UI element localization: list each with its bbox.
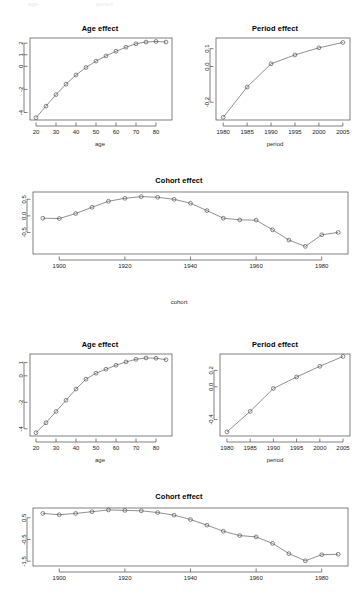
svg-text:1900: 1900	[53, 263, 67, 269]
svg-text:50: 50	[93, 129, 100, 135]
svg-text:-2: -2	[18, 86, 24, 92]
svg-text:20: 20	[33, 129, 40, 135]
age1-xlabel: age	[40, 141, 160, 147]
ghost-label-period: period	[96, 1, 113, 7]
svg-text:1995: 1995	[288, 129, 302, 135]
age2-canvas: 2030405060708010-2-4	[0, 348, 180, 460]
cohort1-title: Cohort effect	[119, 176, 239, 185]
period1-canvas: 1980198519901995200020050.10.0-0.2	[180, 32, 358, 144]
svg-text:1960: 1960	[249, 263, 263, 269]
svg-text:1920: 1920	[118, 263, 132, 269]
svg-text:1980: 1980	[220, 445, 234, 451]
svg-text:0.1: 0.1	[204, 44, 210, 53]
svg-text:0.2: 0.2	[208, 366, 214, 375]
period2-xlabel: period	[215, 457, 335, 463]
age2-xlabel: age	[40, 457, 160, 463]
cohort2-title: Cohort effect	[119, 492, 239, 501]
svg-text:50: 50	[93, 445, 100, 451]
age1-plot: 20304050607080210-2-4	[0, 32, 180, 144]
svg-text:-2: -2	[18, 399, 24, 405]
svg-text:0.0: 0.0	[21, 211, 27, 220]
svg-text:1: 1	[18, 52, 24, 56]
svg-text:2: 2	[18, 41, 24, 45]
svg-text:-4: -4	[18, 109, 24, 115]
svg-text:1990: 1990	[267, 445, 281, 451]
svg-text:1900: 1900	[53, 575, 67, 581]
period1-plot: 1980198519901995200020050.10.0-0.2	[180, 32, 358, 144]
svg-text:1960: 1960	[249, 575, 263, 581]
cohort2-plot: 190019201940196019800.5-0.5-1.5	[0, 502, 358, 594]
cohort2-canvas: 190019201940196019800.5-0.5-1.5	[0, 502, 358, 594]
svg-text:-0.5: -0.5	[21, 227, 27, 238]
svg-text:30: 30	[53, 129, 60, 135]
svg-text:0.5: 0.5	[21, 194, 27, 203]
svg-text:1920: 1920	[118, 575, 132, 581]
svg-text:2005: 2005	[336, 129, 350, 135]
svg-text:0: 0	[18, 373, 24, 377]
svg-text:0.0: 0.0	[204, 62, 210, 71]
ghost-label-age: age	[28, 1, 38, 7]
svg-text:0.5: 0.5	[21, 513, 27, 522]
age2-plot: 2030405060708010-2-4	[0, 348, 180, 460]
svg-text:2000: 2000	[312, 129, 326, 135]
svg-text:2005: 2005	[336, 445, 350, 451]
svg-text:2000: 2000	[313, 445, 327, 451]
svg-text:0: 0	[18, 64, 24, 68]
svg-text:60: 60	[113, 445, 120, 451]
svg-text:70: 70	[133, 129, 140, 135]
svg-text:1980: 1980	[315, 263, 329, 269]
svg-text:-0.5: -0.5	[21, 534, 27, 545]
svg-text:-0.2: -0.2	[204, 96, 210, 107]
svg-text:1990: 1990	[264, 129, 278, 135]
svg-text:1980: 1980	[315, 575, 329, 581]
svg-text:-4: -4	[18, 425, 24, 431]
svg-text:1940: 1940	[184, 575, 198, 581]
cohort1-canvas: 190019201940196019800.50.0-0.5	[0, 186, 358, 284]
svg-text:20: 20	[33, 445, 40, 451]
svg-text:1940: 1940	[184, 263, 198, 269]
figure-sheet: age period Age effect 20304050607080210-…	[0, 0, 358, 598]
svg-text:30: 30	[53, 445, 60, 451]
svg-text:40: 40	[73, 129, 80, 135]
svg-text:60: 60	[113, 129, 120, 135]
svg-text:1995: 1995	[290, 445, 304, 451]
svg-text:-1.5: -1.5	[21, 555, 27, 566]
period2-canvas: 1980198519901995200020050.20.0-0.4	[180, 348, 358, 460]
svg-text:0.0: 0.0	[208, 382, 214, 391]
svg-text:1: 1	[18, 360, 24, 364]
svg-text:80: 80	[153, 445, 160, 451]
svg-text:1980: 1980	[216, 129, 230, 135]
age1-canvas: 20304050607080210-2-4	[0, 32, 180, 144]
svg-text:40: 40	[73, 445, 80, 451]
svg-text:70: 70	[133, 445, 140, 451]
period2-plot: 1980198519901995200020050.20.0-0.4	[180, 348, 358, 460]
cohort1-xlabel: cohort	[119, 299, 239, 305]
cohort1-plot: 190019201940196019800.50.0-0.5	[0, 186, 358, 284]
svg-text:1985: 1985	[243, 445, 257, 451]
period1-xlabel: period	[215, 141, 335, 147]
svg-text:80: 80	[153, 129, 160, 135]
svg-text:1985: 1985	[240, 129, 254, 135]
svg-text:-0.4: -0.4	[208, 414, 214, 425]
